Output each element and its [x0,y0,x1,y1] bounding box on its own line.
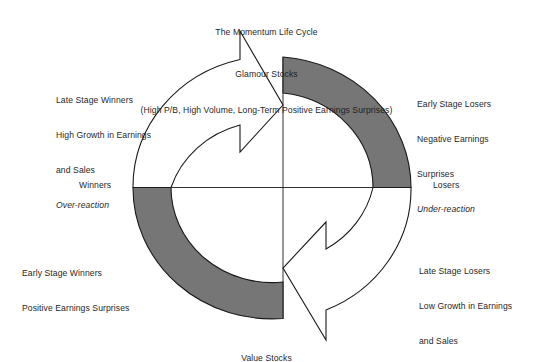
quadrant-label-top-right: Early Stage Losers Negative Earnings Sur… [417,76,491,238]
lower-arrow-body [283,188,411,341]
quadrant-bl-spacer [22,338,129,349]
quadrant-br-line1: Late Stage Losers [419,266,512,278]
quadrant-label-bottom-right: Late Stage Losers Low Growth in Earnings… [419,243,512,362]
quadrant-label-top-left: Late Stage Winners High Growth in Earnin… [56,72,151,234]
quadrant-tl-line2: High Growth in Earnings [56,130,151,142]
quadrant-tr-line1: Early Stage Losers [417,99,491,111]
quadrant-tr-line2: Negative Earnings [417,134,491,146]
axis-label-winners: Winners [79,180,111,192]
axis-label-losers: Losers [433,180,459,192]
figure-title: The Momentum Life Cycle [0,27,533,39]
quadrant-tr-line3: Surprises [417,169,491,181]
quadrant-tl-reaction: Over-reaction [56,200,151,212]
quadrant-br-line3: and Sales [419,336,512,348]
momentum-life-cycle-figure: The Momentum Life Cycle Glamour Stocks (… [0,0,533,362]
quadrant-br-line2: Low Growth in Earnings [419,301,512,313]
quadrant-tr-reaction: Under-reaction [417,204,491,216]
quadrant-tl-line3: and Sales [56,165,151,177]
quadrant-bl-line2: Positive Earnings Surprises [22,303,129,315]
shaded-segment-lower-left [133,188,283,319]
quadrant-label-bottom-left: Early Stage Winners Positive Earnings Su… [22,245,129,362]
quadrant-tl-line1: Late Stage Winners [56,95,151,107]
quadrant-bl-line1: Early Stage Winners [22,268,129,280]
